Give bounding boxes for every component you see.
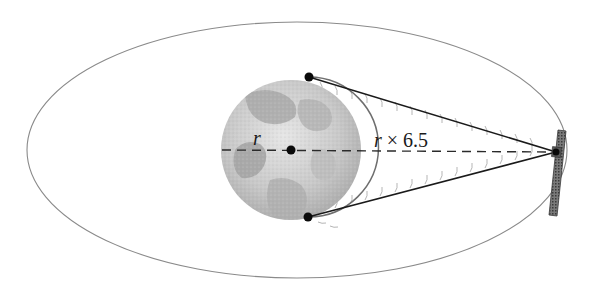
earth-globe <box>221 77 379 220</box>
distance-variable: r <box>374 129 382 151</box>
satellite-icon <box>549 130 566 216</box>
tangent-point-top <box>305 73 314 82</box>
radius-label: r <box>253 128 261 148</box>
earth-center-point <box>287 146 296 155</box>
distance-factor: 6.5 <box>403 129 428 151</box>
diagram-svg <box>0 0 592 283</box>
multiply-operator: × <box>387 129 398 151</box>
tangent-point-bottom <box>304 213 313 222</box>
distance-label: r × 6.5 <box>374 130 428 150</box>
orbit-diagram: r r × 6.5 <box>0 0 592 283</box>
